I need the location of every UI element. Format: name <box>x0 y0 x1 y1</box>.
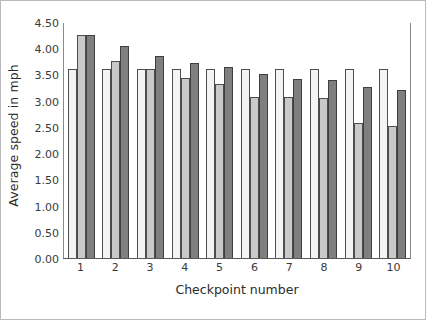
bar-group <box>310 23 337 258</box>
bar-group <box>345 23 372 258</box>
y-axis-tick-label: 4.00 <box>23 43 59 56</box>
bar-series-3-cat-4[interactable] <box>190 63 199 258</box>
bar-group <box>379 23 406 258</box>
y-axis-tick-labels: 0.000.501.001.502.002.503.003.504.004.50 <box>23 23 59 259</box>
x-axis-tick-label: 9 <box>342 261 375 274</box>
bar-group <box>137 23 164 258</box>
bar-series-1-cat-10[interactable] <box>379 69 388 258</box>
y-axis-tick-label: 1.50 <box>23 174 59 187</box>
y-axis-title: Average speed in mph <box>1 1 25 269</box>
bar-series-1-cat-6[interactable] <box>241 69 250 258</box>
bar-series-3-cat-10[interactable] <box>397 90 406 258</box>
bar-series-3-cat-8[interactable] <box>328 80 337 258</box>
bar-series-1-cat-7[interactable] <box>275 69 284 258</box>
y-axis-tick-label: 1.00 <box>23 200 59 213</box>
bar-groups <box>64 23 410 258</box>
bar-series-1-cat-9[interactable] <box>345 69 354 258</box>
bar-series-2-cat-3[interactable] <box>146 69 155 258</box>
bar-group <box>172 23 199 258</box>
bar-series-1-cat-4[interactable] <box>172 69 181 258</box>
x-axis-tick-label: 5 <box>203 261 236 274</box>
x-axis-tick-label: 2 <box>99 261 132 274</box>
bar-series-1-cat-1[interactable] <box>68 69 77 258</box>
bar-series-2-cat-8[interactable] <box>319 98 328 258</box>
bar-group <box>68 23 95 258</box>
bar-series-2-cat-7[interactable] <box>284 97 293 258</box>
bar-series-3-cat-7[interactable] <box>293 79 302 258</box>
x-axis-tick-labels: 12345678910 <box>63 261 411 279</box>
y-axis-tick-label: 0.00 <box>23 253 59 266</box>
x-axis-tick-label: 10 <box>377 261 410 274</box>
x-axis-tick-label: 6 <box>238 261 271 274</box>
bar-series-2-cat-9[interactable] <box>354 123 363 258</box>
y-axis-tick-label: 0.50 <box>23 226 59 239</box>
y-axis-tick-label: 2.50 <box>23 121 59 134</box>
bar-series-1-cat-3[interactable] <box>137 69 146 258</box>
bar-group <box>275 23 302 258</box>
bar-series-3-cat-3[interactable] <box>155 56 164 258</box>
bar-series-2-cat-10[interactable] <box>388 126 397 258</box>
chart-figure: Average speed in mph 0.000.501.001.502.0… <box>0 0 426 320</box>
y-axis-tick-label: 2.00 <box>23 148 59 161</box>
y-axis-tick-label: 3.00 <box>23 95 59 108</box>
bar-series-2-cat-6[interactable] <box>250 97 259 258</box>
y-axis-tick-label: 3.50 <box>23 69 59 82</box>
x-axis-tick-label: 1 <box>64 261 97 274</box>
y-axis-tick-label: 4.50 <box>23 17 59 30</box>
x-axis-tick-label: 7 <box>273 261 306 274</box>
bar-series-1-cat-5[interactable] <box>206 69 215 258</box>
bar-series-3-cat-1[interactable] <box>86 35 95 258</box>
x-axis-tick-label: 3 <box>133 261 166 274</box>
bar-series-2-cat-2[interactable] <box>111 61 120 258</box>
bar-series-3-cat-2[interactable] <box>120 46 129 258</box>
bar-series-1-cat-2[interactable] <box>102 69 111 258</box>
bar-group <box>241 23 268 258</box>
x-axis-title: Checkpoint number <box>63 282 411 297</box>
x-axis-tick-label: 8 <box>307 261 340 274</box>
bar-series-2-cat-1[interactable] <box>77 35 86 258</box>
x-axis-tick-label: 4 <box>168 261 201 274</box>
bar-series-1-cat-8[interactable] <box>310 69 319 258</box>
bar-series-3-cat-6[interactable] <box>259 74 268 258</box>
bar-series-2-cat-5[interactable] <box>215 84 224 258</box>
bar-series-3-cat-9[interactable] <box>363 87 372 258</box>
y-axis-title-text: Average speed in mph <box>6 64 21 206</box>
bar-group <box>206 23 233 258</box>
bar-series-3-cat-5[interactable] <box>224 67 233 258</box>
bar-group <box>102 23 129 258</box>
bar-series-2-cat-4[interactable] <box>181 78 190 258</box>
plot-area <box>63 23 411 259</box>
